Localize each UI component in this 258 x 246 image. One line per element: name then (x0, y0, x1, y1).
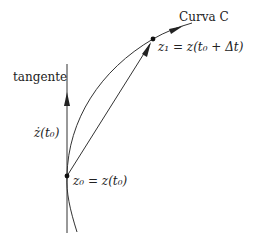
curve-arrow-icon (169, 26, 183, 34)
secant-vector (67, 44, 150, 176)
secant-arrow-icon (142, 42, 151, 57)
derivative-label: ż(t₀) (34, 127, 59, 139)
point-z0 (65, 174, 70, 179)
z1-label: z₁ = z(t₀ + Δt) (158, 41, 243, 53)
diagram-canvas: Curva C z₁ = z(t₀ + Δt) tangente ż(t₀) z… (0, 0, 258, 246)
curve-label: Curva C (179, 11, 229, 23)
diagram-svg (0, 0, 258, 246)
tangent-arrow-icon (64, 92, 70, 106)
z0-label: z₀ = z(t₀) (73, 175, 127, 187)
tangent-label: tangente (13, 71, 67, 83)
point-z1 (151, 37, 156, 42)
curve-c (67, 23, 192, 232)
